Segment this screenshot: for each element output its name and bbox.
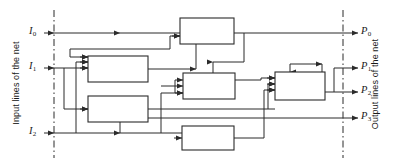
input-port-i1-subscript: 1 [33,65,37,73]
output-port-label-p1: P1 [361,60,371,73]
block-diagram-figure: Input lines of the net Output lines of t… [0,0,399,165]
output-lines-caption: Output lines of the net [370,36,380,132]
input-port-i2-symbol: I [29,125,33,136]
diagram-canvas [0,0,399,165]
block-bottom [182,126,234,150]
output-port-label-p2: P2 [361,84,371,97]
input-port-i2-subscript: 2 [33,130,37,138]
block-top [180,18,234,44]
block-right [275,72,325,100]
input-port-label-i2: I2 [29,125,36,138]
block-middle-right [183,73,235,99]
output-port-label-p3: P3 [361,110,371,123]
input-port-i0-symbol: I [29,25,33,36]
input-port-label-i1: I1 [29,60,36,73]
output-port-label-p0: P0 [361,25,371,38]
input-port-label-i0: I0 [29,25,36,38]
block-upper-left [88,56,148,82]
output-port-p3-subscript: 3 [367,115,371,123]
input-lines-caption: Input lines of the net [11,35,21,131]
input-port-i0-subscript: 0 [33,30,37,38]
output-port-p0-subscript: 0 [367,30,371,38]
output-port-p2-subscript: 2 [367,89,371,97]
output-port-p1-subscript: 1 [367,65,371,73]
block-lower-left [88,96,148,122]
input-port-i1-symbol: I [29,60,33,71]
